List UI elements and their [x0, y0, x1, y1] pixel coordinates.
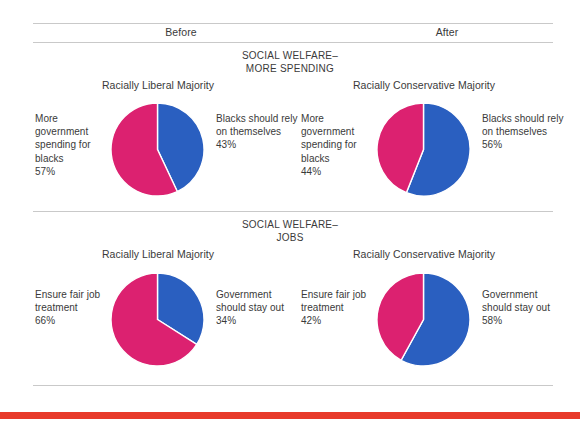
pie-label-text: More government spending for blacks — [35, 113, 91, 164]
pie-label-text: More government spending for blacks — [301, 113, 357, 164]
pie-label-text: Ensure fair job treatment — [301, 289, 366, 313]
pie-label-text: Government should stay out — [482, 289, 550, 313]
pie-label-percent: 42% — [301, 314, 389, 327]
pie-label-jobs-conservative-left: Ensure fair job treatment 42% — [301, 288, 389, 328]
pie-label-spending-liberal-right: Blacks should rely on themselves 43% — [216, 112, 300, 152]
column-header-before: Before — [101, 26, 261, 38]
panel-heading-conservative-majority-jobs: Racially Conservative Majority — [314, 248, 534, 260]
pie-label-percent: 44% — [301, 165, 373, 178]
section-title-jobs: SOCIAL WELFARE– JOBS — [170, 219, 410, 244]
divider-between-sections — [33, 211, 553, 212]
pie-label-percent: 57% — [35, 165, 107, 178]
section-title-more-spending: SOCIAL WELFARE– MORE SPENDING — [170, 50, 410, 75]
pie-label-spending-conservative-left: More government spending for blacks 44% — [301, 112, 373, 178]
pie-label-percent: 66% — [35, 314, 123, 327]
section-title-line1: SOCIAL WELFARE– — [242, 50, 338, 61]
divider-bottom — [33, 385, 553, 386]
pie-chart-spending-liberal: Blacks should rely on themselves 43%More… — [110, 102, 205, 197]
pie-label-percent: 43% — [216, 138, 300, 151]
panel-heading-conservative-majority-spending: Racially Conservative Majority — [314, 79, 534, 91]
pie-label-percent: 56% — [482, 138, 566, 151]
divider-under-column-headers — [33, 42, 553, 43]
pie-label-percent: 34% — [216, 314, 300, 327]
panel-heading-liberal-majority-spending: Racially Liberal Majority — [48, 79, 268, 91]
bottom-accent-bar — [0, 412, 580, 419]
panel-heading-liberal-majority-jobs: Racially Liberal Majority — [48, 248, 268, 260]
column-header-after: After — [367, 26, 527, 38]
section-title-line2: JOBS — [170, 232, 410, 245]
pie-label-jobs-liberal-left: Ensure fair job treatment 66% — [35, 288, 123, 328]
divider-top — [33, 23, 553, 24]
pie-label-text: Blacks should rely on themselves — [482, 113, 564, 137]
pie-label-spending-conservative-right: Blacks should rely on themselves 56% — [482, 112, 566, 152]
section-title-line1: SOCIAL WELFARE– — [242, 219, 338, 230]
pie-label-text: Blacks should rely on themselves — [216, 113, 298, 137]
pie-label-jobs-liberal-right: Government should stay out 34% — [216, 288, 300, 328]
pie-label-text: Government should stay out — [216, 289, 284, 313]
pie-label-percent: 58% — [482, 314, 566, 327]
pie-chart-jobs-conservative: Government should stay out 58%Ensure fai… — [376, 272, 471, 367]
pie-label-jobs-conservative-right: Government should stay out 58% — [482, 288, 566, 328]
section-title-line2: MORE SPENDING — [170, 63, 410, 76]
pie-chart-jobs-liberal: Government should stay out 34%Ensure fai… — [110, 272, 205, 367]
pie-label-text: Ensure fair job treatment — [35, 289, 100, 313]
pie-chart-spending-conservative: Blacks should rely on themselves 56%More… — [376, 102, 471, 197]
infographic-page: Before After SOCIAL WELFARE– MORE SPENDI… — [0, 0, 580, 423]
pie-label-spending-liberal-left: More government spending for blacks 57% — [35, 112, 107, 178]
